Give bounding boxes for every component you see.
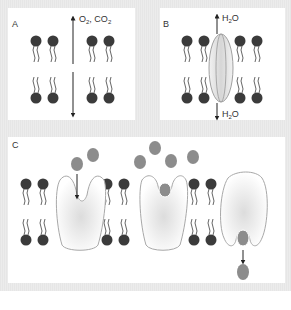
solute-particles-2: [134, 141, 199, 169]
carrier-protein-open-outward: [56, 176, 105, 250]
water-channel-icon: [209, 34, 233, 102]
water-label-top: H2O: [222, 13, 239, 24]
solute-particles-1: [71, 148, 99, 171]
carrier-protein-open-inward: [221, 172, 268, 246]
membrane-diagram: O2, CO2 H2O H2O: [0, 0, 291, 310]
released-solute: [237, 264, 249, 280]
gas-label: O2, CO2: [79, 14, 112, 25]
carrier-protein-bound: [140, 176, 188, 251]
water-label-bottom: H2O: [222, 109, 239, 120]
